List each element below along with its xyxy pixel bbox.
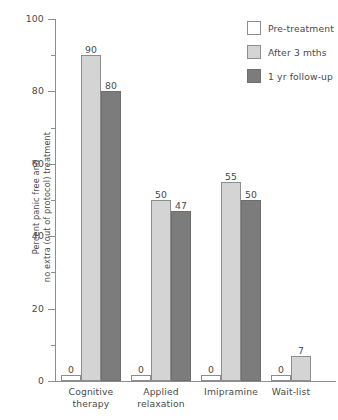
bar-after-2: 55	[221, 182, 241, 381]
y-axis-title-line-1: Percent panic free and	[31, 82, 42, 332]
legend-swatch-after	[247, 45, 261, 59]
y-axis-tick-label: 0	[4, 375, 44, 386]
bar-follow-1: 47	[171, 211, 191, 381]
bar-value-label: 80	[105, 80, 117, 91]
chart-legend: Pre-treatmentAfter 3 mths1 yr follow-up	[247, 16, 334, 88]
bar-follow-0: 80	[101, 91, 121, 381]
bar-value-label: 0	[138, 364, 144, 375]
bar-value-label: 0	[208, 364, 214, 375]
y-axis-tick-major	[48, 309, 56, 310]
y-axis-tick-major	[48, 236, 56, 237]
legend-label: 1 yr follow-up	[268, 71, 333, 82]
legend-label: Pre-treatment	[268, 23, 334, 34]
bar-after-0: 90	[81, 55, 101, 381]
legend-swatch-pre	[247, 21, 261, 35]
bar-follow-2: 50	[241, 200, 261, 381]
bar-pre-3: 0	[271, 375, 291, 381]
y-axis-tick-major	[48, 164, 56, 165]
y-axis-tick-label: 40	[4, 230, 44, 241]
y-axis-title-line-2: no extra (out of protocol) treatment	[42, 82, 53, 332]
y-axis-tick-label: 60	[4, 158, 44, 169]
bar-value-label: 90	[85, 44, 97, 55]
legend-item-follow: 1 yr follow-up	[247, 64, 334, 88]
y-axis-tick-label: 20	[4, 303, 44, 314]
bar-pre-0: 0	[61, 375, 81, 381]
y-axis-title: Percent panic free and no extra (out of …	[31, 82, 53, 332]
category-label-3: Wait-list	[246, 386, 336, 398]
bar-value-label: 0	[278, 364, 284, 375]
y-axis-tick-label: 100	[4, 13, 44, 24]
bar-value-label: 0	[68, 364, 74, 375]
category-label-line-2: relaxation	[116, 398, 206, 410]
legend-label: After 3 mths	[268, 47, 327, 58]
bar-chart: Percent panic free and no extra (out of …	[0, 0, 338, 420]
bar-pre-1: 0	[131, 375, 151, 381]
bar-after-1: 50	[151, 200, 171, 381]
bar-value-label: 55	[225, 171, 237, 182]
bar-after-3: 7	[291, 356, 311, 381]
legend-item-pre: Pre-treatment	[247, 16, 334, 40]
bar-value-label: 50	[155, 189, 167, 200]
bar-value-label: 50	[245, 189, 257, 200]
legend-item-after: After 3 mths	[247, 40, 334, 64]
y-axis-tick-major	[48, 19, 56, 20]
y-axis-tick-label: 80	[4, 85, 44, 96]
x-axis-line	[55, 381, 336, 382]
legend-swatch-follow	[247, 69, 261, 83]
y-axis-tick-major	[48, 91, 56, 92]
bar-pre-2: 0	[201, 375, 221, 381]
bar-value-label: 7	[298, 345, 304, 356]
category-label-line-1: Wait-list	[246, 386, 336, 398]
y-axis-tick-major	[48, 381, 56, 382]
bar-value-label: 47	[175, 200, 187, 211]
